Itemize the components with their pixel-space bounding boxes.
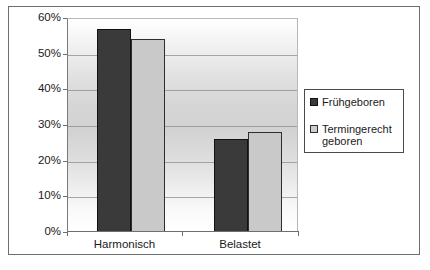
y-tick-label: 20% — [15, 155, 61, 167]
legend-label: Termingerecht geboren — [322, 123, 400, 147]
bar-belastet-termingerecht — [248, 132, 282, 232]
x-axis-baseline — [67, 231, 299, 232]
bar-harmonisch-termingerecht — [131, 39, 165, 232]
y-tick-label: 50% — [15, 48, 61, 60]
y-tick-label: 60% — [15, 12, 61, 24]
legend-label: Frühgeboren — [322, 96, 385, 108]
x-category-label-belastet: Belastet — [182, 239, 298, 251]
x-category-label-harmonisch: Harmonisch — [67, 239, 182, 251]
y-tick-label: 10% — [15, 191, 61, 203]
legend-swatch-icon — [310, 98, 318, 106]
plot-area — [67, 18, 298, 232]
chart-legend: Frühgeboren Termingerecht geboren — [304, 89, 404, 153]
x-tick-mark — [67, 232, 68, 236]
chart-frame: 60% 50% 40% 30% 20% 10% 0% Harmonisch Be… — [8, 6, 420, 255]
legend-entry-termingerecht-geboren: Termingerecht geboren — [310, 123, 400, 147]
y-tick-label: 30% — [15, 119, 61, 131]
bar-belastet-fruehgeboren — [214, 139, 248, 232]
x-tick-mark — [298, 232, 299, 236]
x-tick-mark — [182, 232, 183, 236]
y-tick-label: 0% — [15, 226, 61, 238]
y-axis: 60% 50% 40% 30% 20% 10% 0% — [9, 7, 61, 256]
y-tick-label: 40% — [15, 84, 61, 96]
bar-harmonisch-fruehgeboren — [97, 29, 131, 232]
legend-swatch-icon — [310, 125, 318, 133]
legend-entry-fruehgeboren: Frühgeboren — [310, 96, 385, 108]
